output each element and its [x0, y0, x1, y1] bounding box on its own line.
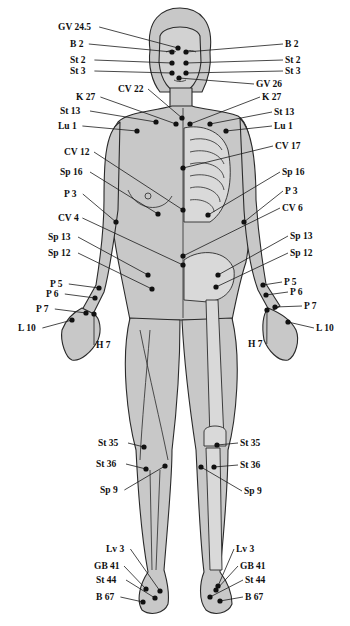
acupoint-p7r — [272, 304, 277, 309]
acupoint-h7r — [264, 307, 269, 312]
point-label-sp13l: Sp 13 — [48, 232, 70, 242]
point-label-lv3l: Lv 3 — [106, 544, 124, 554]
body-figure — [0, 0, 350, 626]
acupoint-b67r — [217, 598, 222, 603]
acupoint-l10l — [69, 317, 74, 322]
acupoint-st2l — [169, 60, 174, 65]
acupoint-k27l — [173, 121, 178, 126]
acupoint-sp9l — [162, 463, 167, 468]
point-label-b67r: B 67 — [245, 592, 263, 602]
point-label-st3l: St 3 — [70, 66, 86, 76]
acupoint-gv26 — [176, 75, 181, 80]
acupoint-b2l — [169, 49, 174, 54]
acupoint-lu1r — [223, 128, 228, 133]
acupoint-sp16l — [155, 211, 160, 216]
acupoint-st3r — [183, 70, 188, 75]
point-label-b2r: B 2 — [285, 39, 298, 49]
acupoint-st36r — [211, 464, 216, 469]
point-label-lu1r: Lu 1 — [274, 121, 293, 131]
point-label-k27l: K 27 — [76, 92, 95, 102]
acupoint-st2r — [183, 60, 188, 65]
point-label-cv6: CV 6 — [282, 203, 303, 213]
acupoint-lv3l — [157, 588, 162, 593]
acupoint-lu1l — [134, 128, 139, 133]
acupoint-p6l — [92, 295, 97, 300]
point-label-st2l: St 2 — [70, 55, 86, 65]
point-label-sp13r: Sp 13 — [290, 231, 312, 241]
point-label-st36l: St 36 — [96, 459, 116, 469]
point-label-st35l: St 35 — [98, 438, 118, 448]
point-label-st35r: St 35 — [240, 438, 260, 448]
acupoint-sp9r — [198, 464, 203, 469]
point-label-h7r: H 7 — [248, 339, 263, 349]
acupoint-sp12r — [213, 284, 218, 289]
point-label-st13l: St 13 — [60, 106, 80, 116]
acupoint-p5r — [260, 282, 265, 287]
acupuncture-diagram: GV 24.5B 2B 2St 2St 2St 3St 3GV 26CV 22K… — [0, 0, 350, 626]
point-label-l10r: L 10 — [316, 323, 334, 333]
acupoint-st44l — [152, 595, 157, 600]
point-label-cv4: CV 4 — [58, 213, 79, 223]
acupoint-st44r — [207, 594, 212, 599]
point-label-st36r: St 36 — [240, 460, 260, 470]
point-label-sp12r: Sp 12 — [290, 248, 312, 258]
point-label-p3l: P 3 — [64, 189, 76, 199]
neck — [170, 88, 192, 108]
point-label-p6l: P 6 — [46, 289, 58, 299]
acupoint-st36l — [143, 466, 148, 471]
point-label-lv3r: Lv 3 — [236, 544, 254, 554]
point-label-b67l: B 67 — [96, 592, 114, 602]
point-label-sp12l: Sp 12 — [48, 248, 70, 258]
acupoint-gb41r — [213, 587, 218, 592]
point-label-gv245: GV 24.5 — [58, 22, 91, 32]
point-label-p5l: P 5 — [50, 279, 62, 289]
point-label-lu1l: Lu 1 — [58, 121, 77, 131]
point-label-st13r: St 13 — [274, 107, 294, 117]
point-label-l10l: L 10 — [18, 323, 36, 333]
point-label-st2r: St 2 — [285, 55, 301, 65]
point-label-gb41r: GB 41 — [240, 561, 266, 571]
knee-cap — [204, 426, 226, 446]
acupoint-st3l — [169, 70, 174, 75]
point-label-st44r: St 44 — [245, 575, 265, 585]
point-label-p5r: P 5 — [284, 277, 296, 287]
acupoint-st35r — [214, 442, 219, 447]
point-label-sp9r: Sp 9 — [244, 486, 262, 496]
acupoint-st13l — [153, 119, 158, 124]
acupoint-p7l — [83, 310, 88, 315]
point-label-p7l: P 7 — [36, 304, 48, 314]
point-label-sp16r: Sp 16 — [282, 167, 304, 177]
point-label-k27r: K 27 — [262, 92, 281, 102]
point-label-p3r: P 3 — [285, 186, 297, 196]
acupoint-sp13l — [145, 272, 150, 277]
point-label-h7l: H 7 — [96, 340, 111, 350]
acupoint-p3r — [241, 219, 246, 224]
acupoint-cv12 — [180, 207, 185, 212]
point-label-b2l: B 2 — [70, 39, 83, 49]
acupoint-h7l — [91, 311, 96, 316]
acupoint-p3l — [113, 219, 118, 224]
point-label-cv12: CV 12 — [64, 147, 89, 157]
acupoint-p6r — [263, 292, 268, 297]
point-label-cv17: CV 17 — [275, 141, 300, 151]
point-label-cv22: CV 22 — [118, 84, 143, 94]
acupoint-sp13r — [215, 272, 220, 277]
point-label-gb41l: GB 41 — [94, 561, 120, 571]
acupoint-st13r — [207, 121, 212, 126]
point-label-sp16l: Sp 16 — [60, 167, 82, 177]
point-label-gv26: GV 26 — [256, 79, 282, 89]
acupoint-cv17 — [180, 165, 185, 170]
right-hand — [263, 308, 298, 360]
leader-line-p5l — [69, 284, 99, 288]
acupoint-cv22 — [179, 115, 184, 120]
acupoint-p5l — [96, 285, 101, 290]
acupoint-b67l — [140, 599, 145, 604]
point-label-sp9l: Sp 9 — [100, 485, 118, 495]
point-label-st3r: St 3 — [285, 66, 301, 76]
acupoint-gb41l — [143, 586, 148, 591]
face — [159, 27, 201, 93]
acupoint-sp16r — [205, 212, 210, 217]
acupoint-cv6 — [180, 253, 185, 258]
acupoint-l10r — [285, 319, 290, 324]
point-label-st44l: St 44 — [96, 575, 116, 585]
